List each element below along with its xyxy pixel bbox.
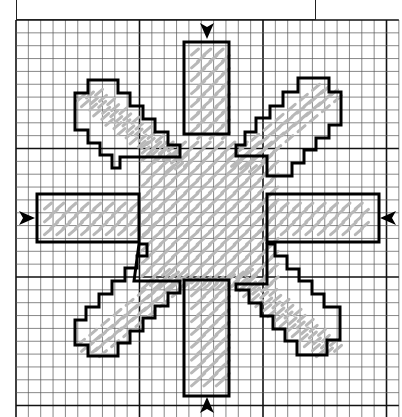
stitch-mark (286, 305, 293, 311)
stitch-mark (192, 303, 199, 309)
stitch-mark (292, 331, 299, 337)
stitch-mark (94, 229, 101, 235)
stitch-mark (313, 345, 320, 351)
stitch-mark (276, 114, 283, 120)
stitch-mark (192, 341, 199, 347)
stitch-mark (192, 316, 199, 322)
stitch-mark (313, 84, 320, 90)
stitch-mark (301, 328, 308, 334)
stitch-mark (288, 325, 295, 331)
stitch-mark (318, 329, 325, 335)
stitch-mark (192, 49, 199, 55)
caption-box: 14-count fabric - 1¾ x 1¾ inches (16, 0, 316, 20)
right-center-arrow-icon (380, 211, 396, 225)
stitch-mark (192, 290, 199, 296)
stitch-mark (286, 136, 293, 142)
stitch-mark (309, 332, 316, 338)
stitch-mark (45, 229, 52, 235)
stitch-mark (144, 126, 151, 132)
stitch-mark (204, 380, 211, 386)
stitch-mark (142, 193, 149, 199)
left-center-arrow-icon (19, 211, 35, 225)
stitch-mark (300, 335, 307, 341)
stitch-mark (118, 129, 125, 135)
stitch-mark (192, 113, 199, 119)
stitch-mark (298, 315, 305, 321)
stitch-mark (331, 229, 338, 235)
stitch-mark (277, 308, 284, 314)
stitch-mark (318, 229, 325, 235)
stitch-mark (192, 367, 199, 373)
stitch-mark (82, 101, 89, 107)
stitch-mark (45, 216, 52, 222)
stitch-layer (45, 49, 369, 386)
stitch-mark (261, 292, 268, 298)
stitch-mark (131, 229, 138, 235)
stitch-mark (216, 380, 223, 386)
stitch-mark (192, 88, 199, 94)
stitch-mark (355, 229, 362, 235)
stitch-mark (298, 126, 305, 132)
stitch-mark (130, 138, 137, 144)
fabric-size-caption: 14-count fabric - 1¾ x 1¾ inches (29, 0, 355, 6)
stitch-mark (82, 229, 89, 235)
stitch-mark (274, 295, 281, 301)
stitch-mark (90, 329, 97, 335)
stitch-mark (192, 62, 199, 68)
stitch-mark (120, 108, 127, 114)
stitch-mark (106, 229, 113, 235)
stitch-mark (78, 95, 85, 101)
stitch-mark (297, 322, 304, 328)
stitch-mark (285, 312, 292, 318)
stitch-mark (192, 126, 199, 132)
stitch-mark (265, 298, 272, 304)
stitch-mark (132, 117, 139, 123)
stitch-mark (335, 345, 342, 351)
top-center-arrow-icon (200, 23, 214, 39)
stitch-mark (156, 136, 163, 142)
stitch-mark (252, 134, 259, 140)
stitch-mark (343, 229, 350, 235)
stitch-mark (94, 110, 101, 116)
stitch-mark (252, 295, 259, 301)
stitch-mark (69, 229, 76, 235)
stitch-mark (102, 319, 109, 325)
stitch-mark (57, 229, 64, 235)
stitch-mark (288, 104, 295, 110)
stitch-mark (264, 124, 271, 130)
stitch-mark (192, 380, 199, 386)
stitch-mark (142, 181, 149, 187)
stitch-mark (192, 354, 199, 360)
stitch-mark (289, 318, 296, 324)
stitch-mark (192, 75, 199, 81)
stitch-mark (280, 321, 287, 327)
stitch-mark (142, 258, 149, 264)
stitch-mark (119, 229, 126, 235)
stitch-mark (281, 229, 288, 235)
stitch-mark (322, 106, 329, 112)
cross-stitch-chart (0, 0, 402, 417)
stitch-mark (306, 229, 313, 235)
stitch-mark (310, 116, 317, 122)
stitch-mark (142, 168, 149, 174)
stitch-mark (45, 203, 52, 209)
stitch-mark (294, 229, 301, 235)
stitch-mark (96, 89, 103, 95)
stitch-mark (108, 99, 115, 105)
stitch-mark (142, 271, 149, 277)
stitch-mark (264, 305, 271, 311)
stitch-mark (192, 328, 199, 334)
stitch-mark (106, 119, 113, 125)
stitch-mark (192, 100, 199, 106)
